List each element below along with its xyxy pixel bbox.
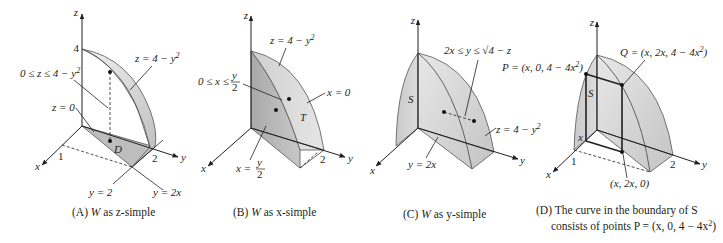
y-axis-label: y [347,152,353,164]
label-base-point: (x, 2x, 0) [610,177,649,190]
caption-c: (C) W as y-simple [403,208,486,221]
svg-text:0 ≤ x ≤: 0 ≤ x ≤ [198,75,229,87]
tick-y-2: 2 [152,152,158,164]
svg-text:y: y [256,156,262,168]
caption-a: (A) W as z-simple [72,206,155,219]
svg-text:2: 2 [257,168,263,180]
surface-s [396,53,418,146]
z-axis-label: z [589,16,595,28]
tick-y-2: 2 [320,153,326,165]
label-region-s: S [588,87,594,99]
label-surface-top: z = 4 − y2 [134,51,180,64]
figure-canvas: z y x 4 1 2 z = 4 − y2 0 ≤ z ≤ 4 − y2 z … [0,0,723,243]
label-range-y: 2x ≤ y ≤ √4 − z [444,44,512,56]
label-surface-top: z = 4 − y2 [269,33,315,46]
y-axis-label: y [701,158,707,170]
label-region-d: D [113,143,122,155]
svg-text:y: y [231,69,237,81]
x-axis-label: x [34,160,40,172]
label-line-y2x: y = 2x [152,186,181,198]
label-plane-y2x: y = 2x [407,158,436,170]
panel-c: z y x 2x ≤ y ≤ √4 − z S z = 4 − y2 y = 2… [369,14,541,221]
label-p: P = (x, 0, 4 − 4x2) [501,60,583,74]
tick-x-mark: x [577,131,583,143]
z-axis-label: z [73,6,79,18]
tick-z-4: 4 [74,42,80,54]
caption-d-line1: (D) The curve in the boundary of S [536,204,698,217]
label-q: Q = (x, 2x, 4 − 4x2) [620,45,708,59]
label-region-t: T [300,111,307,123]
panel-a: z y x 4 1 2 z = 4 − y2 0 ≤ z ≤ 4 − y2 z … [20,6,186,219]
label-floor: z = 0 [51,101,75,113]
z-axis-label: z [243,9,249,21]
tick-y-2: 2 [670,158,676,170]
caption-b: (B) W as x-simple [233,206,316,219]
x-axis [208,128,251,166]
tick-x-1: 1 [58,150,64,162]
svg-text:x =: x = [235,162,251,174]
label-region-s: S [408,93,414,105]
label-range-x: 0 ≤ x ≤ y 2 [198,69,240,93]
x-axis-label: x [369,164,375,176]
label-line-y2: y = 2 [88,186,113,198]
z-axis-label: z [410,14,416,26]
label-plane-x0: x = 0 [326,86,351,98]
y-axis-label: y [180,151,186,163]
x-axis-label: x [545,168,551,180]
caption-d-line2: consists of points P = (x, 0, 4 − 4x2) [551,219,716,233]
label-surface: z = 4 − y2 [495,122,541,135]
y-axis-label: y [519,154,525,166]
svg-text:2: 2 [232,81,238,93]
label-range-z: 0 ≤ z ≤ 4 − y2 [20,66,80,79]
panel-b: z y x 2 z = 4 − y2 0 ≤ x ≤ y 2 x = 0 T x… [198,9,353,219]
tick-x-1: 1 [571,155,577,167]
x-axis-label: x [200,162,206,174]
